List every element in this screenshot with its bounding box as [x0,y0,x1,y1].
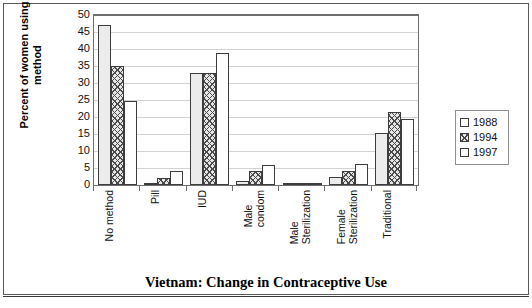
bottom-divider [3,296,529,297]
bar-1988 [375,133,388,185]
bar-group [279,15,325,185]
plot-area [93,14,419,186]
bar-1997 [401,119,414,185]
chart-legend: 198819941997 [455,110,509,165]
legend-entry: 1994 [460,130,504,145]
x-axis-label: IUD [196,190,208,208]
bar-1988 [236,181,249,185]
bar-1988 [98,25,111,185]
x-axis-label: Male condom [242,190,266,227]
x-axis-label: Female Sterilization [335,190,359,244]
figure-container: Percent of women using method 0510152025… [0,0,532,308]
bar-1994 [203,73,216,185]
chart-title: Vietnam: Change in Contraceptive Use [4,274,528,291]
bar-1997 [355,164,368,185]
bar-1994 [157,178,170,185]
bar-1988 [190,73,203,185]
legend-swatch-icon [460,148,469,157]
bar-1997 [124,101,137,185]
bar-1994 [388,112,401,185]
bar-group [372,15,418,185]
y-axis-tick-label: 50 [78,9,90,20]
bar-1988 [283,183,296,185]
bar-group [94,15,140,185]
y-axis-tick-label: 40 [78,43,90,54]
y-axis-tick-label: 5 [84,162,90,173]
y-axis-tick-label: 45 [78,26,90,37]
x-axis-label: Traditional [381,190,393,239]
y-axis-tick-label: 20 [78,111,90,122]
bar-1997 [262,165,275,185]
clipped-caption [6,298,526,307]
legend-swatch-icon [460,118,469,127]
y-axis-tick-label: 30 [78,77,90,88]
x-axis-label: No method [103,190,115,241]
legend-entry: 1988 [460,115,504,130]
bar-1994 [342,171,355,185]
bar-1994 [296,183,309,185]
x-axis-category-labels: No methodPillIUDMale condomMale Steriliz… [93,190,419,272]
bar-1994 [249,171,262,185]
legend-entry: 1997 [460,145,504,160]
legend-label: 1994 [473,132,497,143]
bar-1988 [144,183,157,185]
legend-swatch-icon [460,133,469,142]
y-axis-tick-label: 0 [84,179,90,190]
bar-group [187,15,233,185]
bar-group [233,15,279,185]
bar-1997 [309,183,322,185]
y-axis-tick-label: 10 [78,145,90,156]
y-axis-tick-labels: 05101520253035404550 [56,8,90,192]
bar-group [140,15,186,185]
legend-label: 1997 [473,147,497,158]
bar-1994 [111,66,124,185]
y-axis-tick-label: 25 [78,94,90,105]
y-axis-tick-label: 35 [78,60,90,71]
bar-1997 [170,171,183,185]
bar-1997 [216,53,229,185]
y-axis-title: Percent of women using method [18,0,44,140]
bar-group [325,15,371,185]
x-axis-label: Male Sterilization [288,190,312,244]
y-axis-tick-label: 15 [78,128,90,139]
legend-label: 1988 [473,117,497,128]
bar-1988 [329,177,342,186]
x-axis-label: Pill [149,190,161,204]
